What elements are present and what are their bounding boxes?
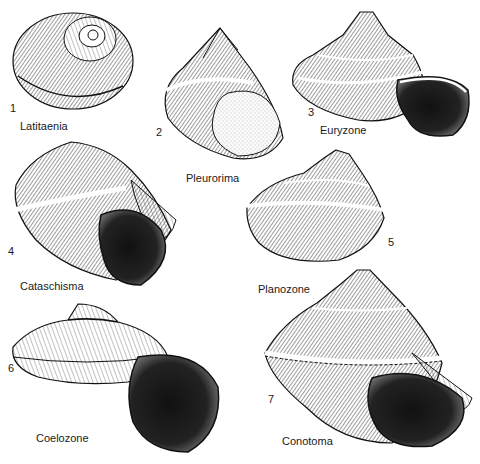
figure-label: Coelozone: [36, 432, 89, 444]
figure-label: Euryzone: [320, 124, 366, 136]
figure-label: Conotoma: [282, 435, 333, 447]
figure-number: 3: [308, 106, 314, 118]
planozone-shell-illustration: [244, 148, 389, 268]
figure-number: 6: [8, 362, 14, 374]
euryzone-shell-illustration: [288, 10, 478, 145]
figure-number: 1: [10, 102, 16, 114]
figure-label: Latitaenia: [20, 120, 68, 132]
latitaenia-shell-illustration: [8, 6, 138, 116]
conotoma-shell-illustration: [262, 268, 477, 453]
cataschisma-shell-illustration: [6, 140, 186, 285]
figure-label: Pleurorima: [186, 172, 239, 184]
figure-number: 2: [156, 126, 162, 138]
shell-plate: 1 Latitaenia 2 Pleurorima 3 Euryzone: [0, 0, 480, 464]
figure-label: Cataschisma: [20, 280, 84, 292]
figure-number: 5: [388, 236, 394, 248]
figure-number: 7: [268, 393, 274, 405]
figure-number: 4: [8, 245, 14, 257]
